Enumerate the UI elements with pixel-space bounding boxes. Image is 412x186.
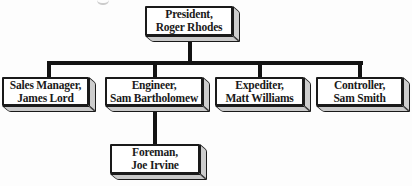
node-face: Engineer, Sam Bartholomew	[105, 77, 203, 106]
org-node-expediter: Expediter, Matt Williams	[215, 77, 304, 106]
node-3d-side-bottom	[2, 106, 96, 112]
org-node-engineer: Engineer, Sam Bartholomew	[105, 77, 203, 106]
node-face: Foreman, Joe Irvine	[110, 144, 200, 174]
node-title: President,	[165, 8, 212, 21]
node-face: Sales Manager, James Lord	[2, 77, 89, 106]
node-title: Controller,	[334, 79, 385, 92]
connector-bus	[47, 61, 363, 65]
node-face: Expediter, Matt Williams	[215, 77, 304, 106]
scan-artifact	[97, 0, 109, 5]
node-name: Sam Bartholomew	[110, 92, 198, 105]
node-title: Engineer,	[132, 79, 177, 92]
node-face: President, Roger Rhodes	[145, 6, 233, 36]
node-title: Sales Manager,	[10, 79, 82, 92]
node-name: Matt Williams	[225, 92, 293, 105]
node-title: Foreman,	[132, 146, 178, 159]
node-3d-side-bottom	[145, 36, 240, 42]
node-3d-side-bottom	[316, 106, 410, 112]
node-title: Expediter,	[235, 79, 283, 92]
org-node-president: President, Roger Rhodes	[145, 6, 233, 36]
org-node-sales-manager: Sales Manager, James Lord	[2, 77, 89, 106]
node-name: Joe Irvine	[131, 159, 179, 172]
node-3d-side-bottom	[215, 106, 311, 112]
org-node-foreman: Foreman, Joe Irvine	[110, 144, 200, 174]
org-chart: President, Roger Rhodes Sales Manager, J…	[0, 0, 412, 186]
node-3d-side-bottom	[110, 174, 207, 180]
node-face: Controller, Sam Smith	[316, 77, 403, 106]
node-name: Roger Rhodes	[156, 21, 223, 34]
org-node-controller: Controller, Sam Smith	[316, 77, 403, 106]
node-name: Sam Smith	[333, 92, 385, 105]
node-3d-side-bottom	[105, 106, 210, 112]
node-name: James Lord	[17, 92, 73, 105]
